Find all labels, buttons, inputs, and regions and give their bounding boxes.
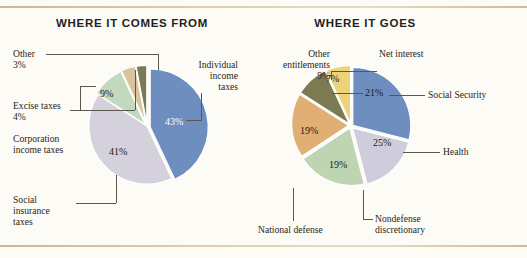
label-corporation-income-taxes: Corporation income taxes [13,133,63,155]
leader-corporation-h2 [80,86,96,87]
label-other-entitlements: Other entitlements 9% [258,48,330,82]
label-excise-taxes: Excise taxes 4% [13,100,61,122]
leader-other-entitlements-h [333,93,363,94]
leader-national-defense-v [293,188,294,221]
leader-excise-h [70,110,135,111]
leader-social-h [76,203,116,204]
label-social-insurance-taxes: Social insurance taxes [13,194,50,228]
leader-net-interest-v [331,71,332,80]
leader-individual-h [186,120,202,121]
pct-social-insurance-taxes: 41% [109,146,127,157]
label-net-interest: Net interest [379,48,424,59]
leader-net-interest-h [331,71,377,72]
pct-social-security: 21% [365,87,383,98]
label-national-defense: National defense [258,224,323,235]
pct-individual-income-taxes: 43% [165,116,183,127]
label-social-security: Social Security [428,89,486,100]
leader-social-v [116,175,117,203]
label-other: Other 3% [13,48,35,70]
label-individual-income-taxes: Individual income taxes [178,59,238,93]
pie-slice-social-security[interactable] [353,67,411,139]
leader-health-h [403,152,440,153]
chart-panel-where-it-comes-from: WHERE IT COMES FROM 43% 41% 9% Other 3% … [0,0,264,258]
pct-health: 25% [373,137,391,148]
leader-nondefense-v [363,190,364,219]
chart-title-right: WHERE IT GOES [233,17,497,29]
chart-panel-where-it-goes: WHERE IT GOES 21% 25% 19% 19% 7% [263,0,527,258]
leader-other-v [158,54,159,70]
pct-national-defense: 19% [300,125,318,136]
pct-nondefense-discretionary: 19% [329,159,347,170]
chart-title-left: WHERE IT COMES FROM [0,17,264,29]
leader-other-h [46,54,159,55]
label-nondefense-discretionary: Nondefense discretionary [375,213,425,235]
figure-canvas: WHERE IT COMES FROM 43% 41% 9% Other 3% … [0,0,527,258]
label-health: Health [443,146,469,157]
leader-social-security-h [389,95,425,96]
pct-corporation-income-taxes: 9% [100,88,113,99]
leader-corporation-v [80,86,81,110]
leader-individual-v [201,93,202,120]
leader-nondefense-h [363,219,373,220]
leader-excise-v [135,70,136,110]
